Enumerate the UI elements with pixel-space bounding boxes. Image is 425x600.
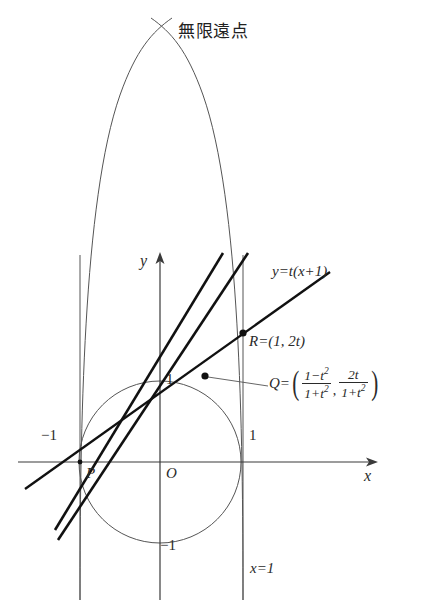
q-x-numerator: 1−t2 (302, 366, 330, 383)
line-family-equation-label: y=t(x+1) (272, 264, 327, 279)
tick-label-x-neg-one: −1 (41, 428, 57, 443)
q-x-denominator: 1+t2 (302, 384, 330, 401)
q-x-fraction: 1−t2 1+t2 (302, 366, 330, 400)
point-R-label: R=(1, 2t) (249, 334, 305, 349)
point-P-label: P (86, 466, 95, 481)
point-Q-label: Q= ( 1−t2 1+t2 , 2t 1+t2 ) (269, 366, 380, 400)
tick-label-y-pos-one: 1 (166, 372, 174, 387)
q-coordinate-comma: , (333, 384, 337, 400)
infinity-curve-left (80, 18, 172, 600)
point-Q-marker (201, 372, 208, 379)
point-at-infinity-annotation: 無限遠点 (178, 23, 248, 40)
x-axis-label: x (364, 468, 371, 484)
q-y-denominator: 1+t2 (339, 383, 367, 400)
q-leader-line (208, 377, 268, 386)
y-axis-label: y (140, 253, 147, 269)
infinity-curve-right (151, 18, 243, 600)
q-paren-close: ) (371, 370, 378, 397)
vertical-line-equation-label: x=1 (250, 561, 274, 576)
point-R-marker (239, 329, 246, 336)
math-figure-projective-circle: 無限遠点 y x O P −1 1 1 −1 y=t(x+1) x=1 R=(1… (0, 0, 425, 600)
q-y-fraction: 2t 1+t2 (339, 367, 367, 400)
point-P-marker (78, 460, 83, 465)
origin-label: O (166, 466, 177, 481)
q-label-prefix: Q= (269, 376, 290, 391)
q-y-numerator: 2t (346, 367, 361, 382)
q-paren-open: ( (292, 370, 299, 397)
tick-label-x-pos-one: 1 (249, 428, 257, 443)
figure-canvas (0, 0, 425, 600)
tick-label-y-neg-one: −1 (160, 538, 176, 553)
